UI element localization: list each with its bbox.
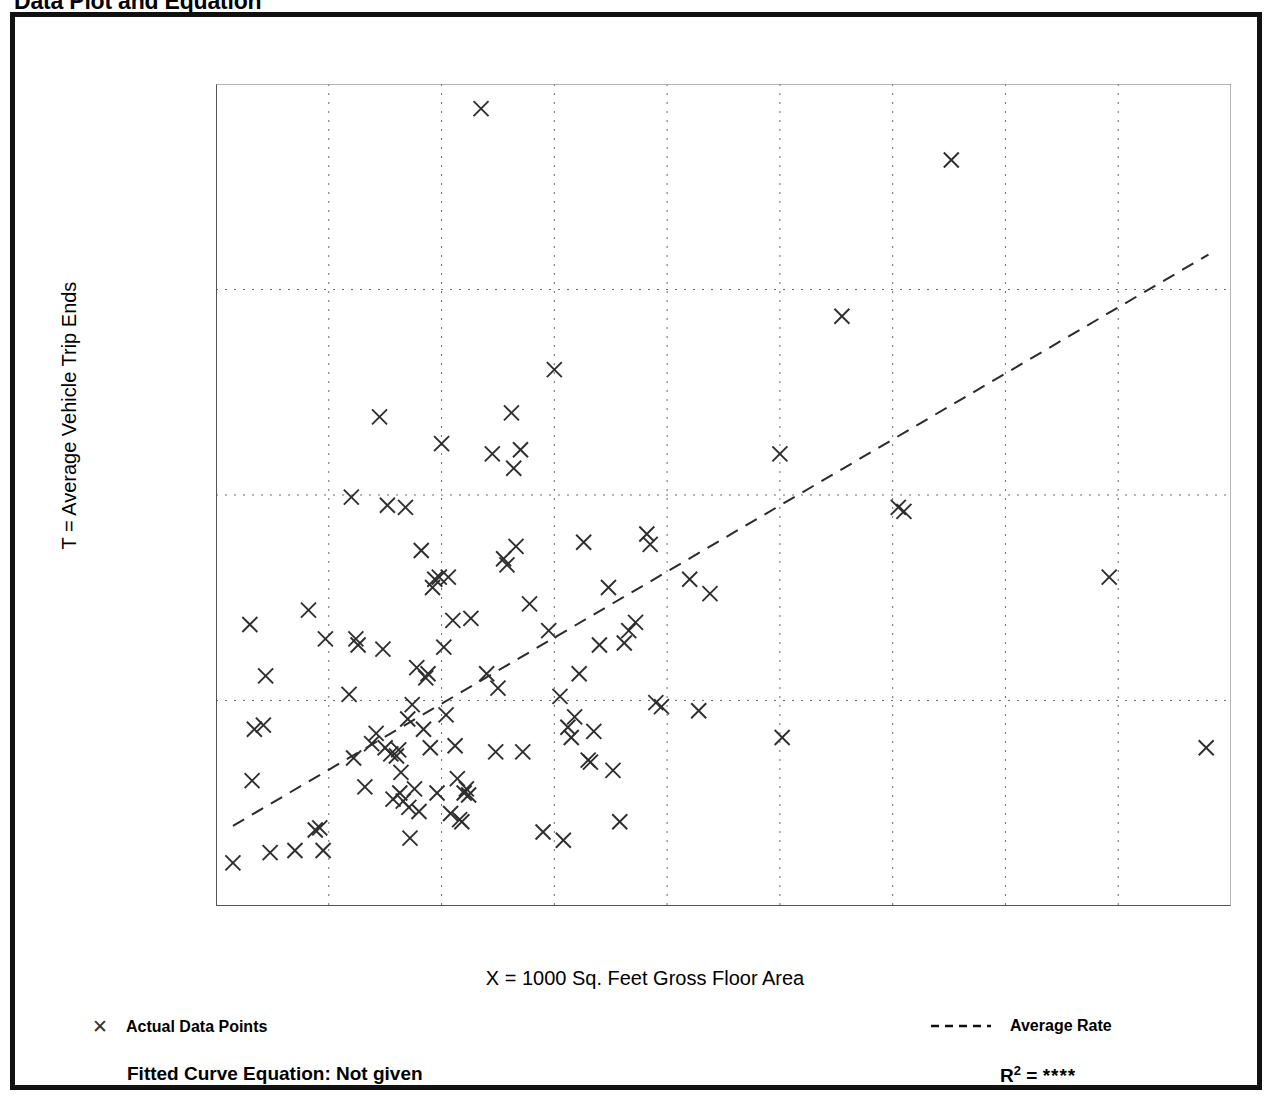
r-squared-exponent: 2 [1014,1063,1021,1078]
data-point-marker [564,730,579,745]
data-point-marker [488,744,503,759]
data-point-marker [344,490,359,505]
r-squared-equals: = [1021,1065,1043,1086]
legend-label-average-rate: Average Rate [1010,1017,1112,1035]
data-point-marker [445,613,460,628]
data-point-marker [1102,570,1117,585]
data-point-marker [515,744,530,759]
data-point-marker [375,642,390,657]
fitted-curve-equation: Fitted Curve Equation: Not given [127,1063,423,1085]
legend-item-actual-data-points: ✕ Actual Data Points [92,1017,267,1036]
data-point-marker [691,703,706,718]
data-points [225,101,1213,870]
data-point-marker [479,666,494,681]
data-point-marker [434,436,449,451]
data-point-marker [414,543,429,558]
data-point-marker [398,500,413,515]
r-squared-value: R2 = **** [1000,1063,1076,1087]
data-point-marker [536,825,551,840]
legend-label-actual-data-points: Actual Data Points [126,1018,267,1036]
data-point-marker [775,730,790,745]
figure-frame: 123456789100100200300400 T = Average Veh… [10,12,1262,1090]
data-point-marker [423,740,438,755]
data-point-marker [628,615,643,630]
data-point-marker [513,442,528,457]
data-point-marker [287,843,302,858]
data-point-marker [474,101,489,116]
data-point-marker [586,724,601,739]
plot-area: 123456789100100200300400 [216,84,1231,906]
data-point-marker [225,855,240,870]
data-point-marker [407,781,422,796]
data-point-marker [506,461,521,476]
data-point-marker [372,409,387,424]
data-point-marker [572,666,587,681]
x-marker-icon: ✕ [92,1017,108,1036]
data-point-marker [556,833,571,848]
data-point-marker [504,405,519,420]
data-point-marker [601,580,616,595]
data-point-marker [301,603,316,618]
data-point-marker [439,707,454,722]
data-point-marker [485,446,500,461]
data-point-marker [242,617,257,632]
data-point-marker [318,631,333,646]
data-point-marker [896,504,911,519]
x-axis-title: X = 1000 Sq. Feet Gross Floor Area [145,967,1145,990]
data-point-marker [639,527,654,542]
data-point-marker [541,623,556,638]
data-point-marker [567,709,582,724]
data-point-marker [522,596,537,611]
data-point-marker [245,773,260,788]
data-point-marker [258,668,273,683]
data-point-marker [263,845,278,860]
legend-item-average-rate: Average Rate [930,1017,1112,1035]
data-point-marker [617,635,632,650]
data-point-marker [621,623,636,638]
data-point-marker [834,309,849,324]
scatter-plot-svg: 123456789100100200300400 [216,84,1231,906]
data-point-marker [592,638,607,653]
data-point-marker [772,446,787,461]
r-squared-stars: **** [1043,1065,1077,1086]
data-point-marker [612,814,627,829]
data-point-marker [576,535,591,550]
data-point-marker [682,572,697,587]
average-rate-trendline [233,255,1209,826]
data-point-marker [342,687,357,702]
data-point-marker [405,697,420,712]
data-point-marker [430,785,445,800]
data-point-marker [416,722,431,737]
data-point-marker [490,681,505,696]
data-point-marker [393,765,408,780]
data-point-marker [383,746,398,761]
data-point-marker [443,806,458,821]
data-point-marker [605,763,620,778]
data-point-marker [944,153,959,168]
data-point-marker [560,720,575,735]
dashed-line-icon [930,1017,992,1035]
data-point-marker [508,539,523,554]
data-point-marker [357,779,372,794]
data-point-marker [441,570,456,585]
r-squared-base: R [1000,1065,1014,1086]
data-point-marker [436,640,451,655]
data-point-marker [643,537,658,552]
data-point-marker [702,586,717,601]
data-point-marker [499,557,514,572]
data-point-marker [1199,740,1214,755]
y-axis-title: T = Average Vehicle Trip Ends [58,66,81,766]
data-point-marker [463,611,478,626]
data-point-marker [380,498,395,513]
data-point-marker [448,738,463,753]
data-point-marker [402,831,417,846]
